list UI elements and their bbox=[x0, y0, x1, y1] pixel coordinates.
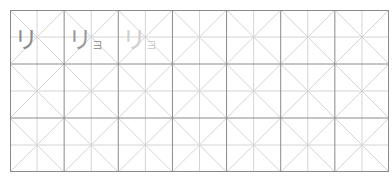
char-small: ョ bbox=[91, 36, 104, 51]
practice-grid: リ リョ リョ bbox=[10, 10, 389, 172]
grid-lines bbox=[10, 10, 389, 172]
char-main: リ bbox=[68, 26, 90, 54]
practice-char-ryo-trace: リョ bbox=[122, 20, 158, 55]
char-main: リ bbox=[122, 26, 144, 54]
char-small: ョ bbox=[145, 36, 158, 51]
practice-char-ri: リ bbox=[14, 20, 37, 55]
char-main: リ bbox=[14, 26, 36, 54]
practice-char-ryo: リョ bbox=[68, 20, 104, 55]
